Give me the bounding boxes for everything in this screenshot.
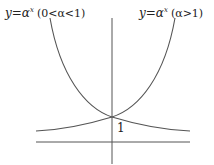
label-equals: = (12, 6, 22, 20)
label-increasing-function: y=αx(α>1) (139, 7, 203, 19)
label-exponent: x (30, 6, 34, 14)
y-intercept-label: 1 (117, 122, 125, 134)
label-lhs: y (139, 6, 146, 20)
label-equals: = (146, 6, 156, 20)
label-condition: (α>1) (171, 7, 203, 20)
label-exponent: x (164, 6, 168, 14)
label-decreasing-function: y=αx(0<α<1) (5, 7, 85, 19)
exponential-graph (0, 0, 214, 165)
label-lhs: y (5, 6, 12, 20)
label-condition: (0<α<1) (37, 7, 85, 20)
label-base: α (22, 6, 30, 20)
label-base: α (156, 6, 164, 20)
